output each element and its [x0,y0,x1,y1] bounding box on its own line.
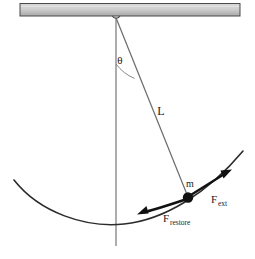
pendulum-bob [183,192,193,202]
pendulum-string [117,19,189,197]
external-force-subscript: ext [218,199,228,208]
ceiling-bar [20,4,240,17]
restoring-force-subscript: restore [170,218,191,227]
external-force-label: F ext [211,193,228,208]
angle-label: θ [117,54,122,66]
mass-label: m [186,178,194,189]
restoring-force-arrow [137,199,187,215]
restoring-force-symbol: F [163,212,169,224]
swing-path-arc [14,151,243,225]
length-label: L [157,104,164,118]
angle-arc [116,64,135,79]
external-force-symbol: F [211,193,217,205]
restoring-force-label: F restore [163,212,191,227]
pendulum-figure-svg: θ L m F ext F restore [0,0,255,259]
pendulum-diagram: θ L m F ext F restore [0,0,255,259]
